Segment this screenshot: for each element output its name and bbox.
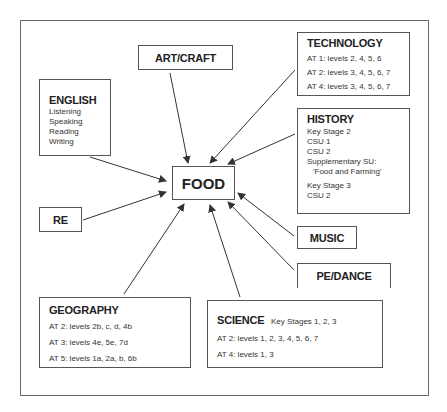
node-line: AT 2: levels 3, 4, 5, 6, 7	[307, 66, 409, 80]
node-line: Writing	[49, 137, 110, 147]
node-line: AT 1: levels 2, 4, 5, 6	[307, 52, 409, 66]
node-line: Key Stage 2	[307, 127, 409, 137]
food-label: FOOD	[182, 175, 225, 192]
node-line: Supplementary SU:	[307, 157, 409, 167]
arrow-pe-dance	[228, 202, 294, 270]
node-technology: TECHNOLOGY AT 1: levels 2, 4, 5, 6 AT 2:…	[297, 32, 410, 96]
node-line: AT 2: levels 2b, c, d, 4b	[49, 319, 190, 335]
node-music: MUSIC	[297, 226, 357, 249]
node-line: CSU 2	[307, 191, 409, 201]
node-line: Reading	[49, 127, 110, 137]
node-title: ART/CRAFT	[155, 52, 216, 64]
node-line: Key Stage 3	[307, 181, 409, 191]
node-line: AT 5: levels 1a, 2a, b, 6b	[49, 351, 190, 367]
node-line: Speaking	[49, 117, 110, 127]
node-subtitle: Key Stages 1, 2, 3	[271, 317, 336, 326]
node-title: GEOGRAPHY	[49, 304, 190, 316]
arrow-science	[210, 205, 240, 297]
arrow-music	[238, 193, 294, 236]
science-header: SCIENCE Key Stages 1, 2, 3	[217, 310, 382, 328]
arrow-history	[228, 134, 295, 164]
node-line: AT 4: levels 3, 4, 5, 6, 7	[307, 80, 409, 94]
node-title: RE	[53, 214, 68, 226]
arrow-technology	[210, 70, 295, 163]
node-title: SCIENCE	[217, 314, 265, 326]
node-english: ENGLISH Listening Speaking Reading Writi…	[39, 79, 111, 156]
node-re: RE	[39, 207, 82, 232]
node-line: AT 2: levels 1, 2, 3, 4, 5, 6, 7	[217, 331, 382, 347]
node-title: HISTORY	[307, 113, 409, 125]
arrow-re	[83, 192, 166, 220]
node-history: HISTORY Key Stage 2 CSU 1 CSU 2 Suppleme…	[297, 108, 410, 214]
node-line: CSU 2	[307, 147, 409, 157]
node-title: ENGLISH	[49, 94, 110, 106]
node-pe-dance: PE/DANCE	[297, 263, 391, 288]
node-line: Listening	[49, 107, 110, 117]
node-line: CSU 1	[307, 137, 409, 147]
node-title: PE/DANCE	[316, 270, 371, 282]
arrow-art-craft	[170, 73, 188, 163]
node-line: 'Food and Farming'	[307, 167, 409, 177]
arrow-geography	[124, 204, 184, 294]
node-title: TECHNOLOGY	[307, 37, 409, 49]
node-food: FOOD	[172, 166, 235, 200]
arrow-english	[90, 157, 166, 181]
node-title: MUSIC	[310, 232, 344, 244]
node-art-craft: ART/CRAFT	[138, 45, 233, 70]
node-line: AT 3: levels 4e, 5e, 7d	[49, 335, 190, 351]
node-line: AT 4: levels 1, 3	[217, 347, 382, 363]
node-geography: GEOGRAPHY AT 2: levels 2b, c, d, 4b AT 3…	[39, 297, 191, 368]
node-science: SCIENCE Key Stages 1, 2, 3 AT 2: levels …	[207, 300, 383, 368]
